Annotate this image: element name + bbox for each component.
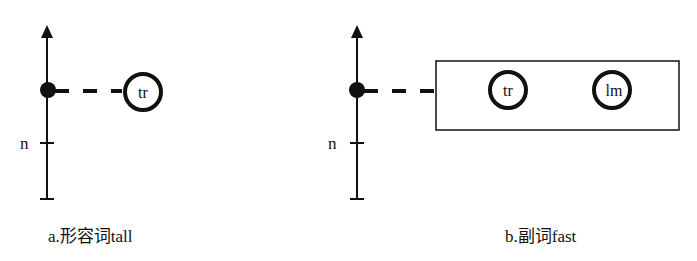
axis-point [40,82,56,98]
arrow-head-icon [41,25,53,38]
trajector-label: tr [138,84,148,101]
panel-a: n tr [20,25,161,199]
trajector-label: tr [503,82,513,99]
landmark-label: lm [606,82,623,99]
axis-tick-label: n [20,134,29,153]
panel-b: n tr lm [328,25,679,199]
landmark-box [436,61,679,130]
axis-tick-label: n [328,134,337,153]
arrow-head-icon [351,25,363,38]
caption-b: b.副词fast [505,222,576,247]
caption-a: a.形容词tall [48,222,133,247]
axis-point [349,82,365,98]
